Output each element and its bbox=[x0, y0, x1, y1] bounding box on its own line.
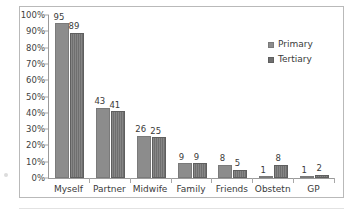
y-axis-tick-label: 20% bbox=[26, 141, 45, 150]
x-axis-label-myself: Myself bbox=[48, 184, 89, 195]
bar-group: 2625 bbox=[131, 15, 172, 178]
x-axis-category-labels: MyselfPartnerMidwifeFamilyFriendsObstetn… bbox=[48, 184, 334, 198]
x-axis-tick-mark bbox=[211, 178, 212, 183]
footer-divider bbox=[19, 208, 344, 209]
bar-primary-myself[interactable] bbox=[55, 23, 69, 178]
chart-page: 0%10%20%30%40%50%60%70%80%90%100% 958943… bbox=[0, 0, 363, 217]
legend-label-primary: Primary bbox=[278, 40, 313, 49]
y-axis-tick-label: 70% bbox=[26, 60, 45, 69]
bar-value-label: 8 bbox=[268, 154, 288, 163]
bar-tertiary-myself[interactable] bbox=[70, 33, 84, 178]
bar-primary-obstetn[interactable] bbox=[259, 176, 273, 178]
bar-value-label: 2 bbox=[309, 164, 329, 173]
y-axis-tick-label: 40% bbox=[26, 109, 45, 118]
bar-value-label: 25 bbox=[146, 127, 166, 136]
y-axis-tick-label: 10% bbox=[26, 157, 45, 166]
bar-value-label: 9 bbox=[187, 153, 207, 162]
x-axis-tick-mark bbox=[171, 178, 172, 183]
x-axis-tick-mark bbox=[130, 178, 131, 183]
y-axis-tick-label: 30% bbox=[26, 125, 45, 134]
bar-group: 85 bbox=[212, 15, 253, 178]
bar-tertiary-gp[interactable] bbox=[315, 175, 329, 178]
bar-value-label: 41 bbox=[105, 101, 125, 110]
x-axis-tick-mark bbox=[89, 178, 90, 183]
x-axis-tick-mark bbox=[334, 178, 335, 183]
bar-primary-gp[interactable] bbox=[300, 176, 314, 178]
x-axis-label-gp: GP bbox=[293, 184, 334, 195]
y-axis-tick-label: 80% bbox=[26, 43, 45, 52]
x-axis-tick-mark bbox=[252, 178, 253, 183]
x-axis-label-midwife: Midwife bbox=[130, 184, 171, 195]
y-axis-tick-label: 50% bbox=[26, 92, 45, 101]
bar-tertiary-obstetn[interactable] bbox=[274, 165, 288, 178]
legend-item-primary[interactable]: Primary bbox=[268, 38, 338, 51]
y-axis-tick-labels: 0%10%20%30%40%50%60%70%80%90%100% bbox=[0, 0, 45, 217]
bar-group: 4341 bbox=[90, 15, 131, 178]
bar-group: 9589 bbox=[49, 15, 90, 178]
y-axis-tick-label: 60% bbox=[26, 76, 45, 85]
legend-item-tertiary[interactable]: Tertiary bbox=[268, 53, 338, 66]
bar-value-label: 89 bbox=[64, 22, 84, 31]
bar-tertiary-friends[interactable] bbox=[233, 170, 247, 178]
bar-group: 99 bbox=[172, 15, 213, 178]
bar-primary-midwife[interactable] bbox=[137, 136, 151, 178]
bar-value-label: 5 bbox=[227, 159, 247, 168]
legend-swatch-tertiary-icon bbox=[268, 57, 274, 63]
x-axis-line bbox=[48, 178, 334, 179]
bar-primary-partner[interactable] bbox=[96, 108, 110, 178]
x-axis-label-friends: Friends bbox=[211, 184, 252, 195]
bar-value-label: 1 bbox=[253, 166, 273, 175]
x-axis-label-family: Family bbox=[171, 184, 212, 195]
bar-tertiary-family[interactable] bbox=[193, 163, 207, 178]
y-axis-tick-label: 100% bbox=[21, 11, 45, 20]
bar-tertiary-midwife[interactable] bbox=[152, 137, 166, 178]
x-axis-label-obstetn: Obstetn bbox=[252, 184, 293, 195]
legend-label-tertiary: Tertiary bbox=[278, 55, 312, 64]
y-axis-tick-label: 90% bbox=[26, 27, 45, 36]
y-axis-tick-label: 0% bbox=[32, 174, 46, 183]
legend-swatch-primary-icon bbox=[268, 42, 274, 48]
x-axis-tick-mark bbox=[293, 178, 294, 183]
bar-value-label: 95 bbox=[49, 13, 69, 22]
bar-tertiary-partner[interactable] bbox=[111, 111, 125, 178]
x-axis-label-partner: Partner bbox=[89, 184, 130, 195]
bar-primary-family[interactable] bbox=[178, 163, 192, 178]
chart-legend: Primary Tertiary bbox=[268, 38, 338, 68]
